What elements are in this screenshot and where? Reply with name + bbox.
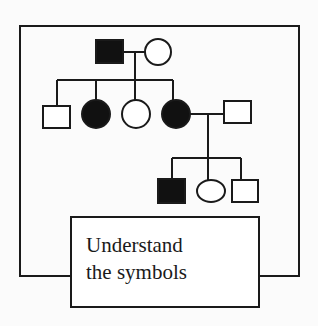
male-affected-symbol-III-1 (158, 179, 185, 203)
female-unaffected-symbol-II-3 (122, 100, 150, 128)
female-affected-symbol-II-2 (82, 100, 110, 128)
female-unaffected-symbol-III-2 (197, 180, 225, 202)
female-unaffected-symbol-I-2 (145, 39, 171, 65)
male-unaffected-symbol-III-3 (232, 180, 258, 202)
male-unaffected-symbol-II-5 (224, 101, 251, 123)
male-unaffected-symbol-II-1 (43, 106, 70, 128)
pedigree-diagram: Understand the symbols (0, 0, 318, 326)
label-line-1: Understand (86, 233, 183, 257)
label-line-2: the symbols (86, 260, 187, 284)
male-affected-symbol-I-1 (96, 40, 123, 63)
female-affected-symbol-II-4 (162, 100, 190, 128)
